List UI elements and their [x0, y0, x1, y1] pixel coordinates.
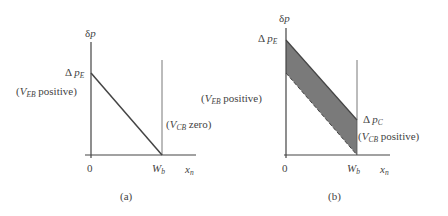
panel-a-x-tick-0: 0 [87, 163, 93, 174]
panel-b-y-axis-label: δp [279, 13, 290, 24]
panel-b-x-axis-label: xn [380, 164, 389, 175]
panel-a-dp-e-label: Δ pE [65, 67, 84, 78]
panel-b-veb-note: (VEB positive) [201, 93, 262, 104]
panel-a-x-axis-label: xn [185, 164, 194, 175]
panel-a-vcb-note: (VCB zero) [166, 119, 211, 130]
panel-b-x-tick-wb: Wb [347, 163, 360, 174]
panel-a-caption: (a) [120, 191, 132, 202]
panel-a-y-axis-label: δp [85, 28, 96, 39]
panel-b-x-tick-0: 0 [282, 163, 288, 174]
panel-a-graph [85, 42, 196, 158]
panel-a-x-tick-wb: Wb [152, 163, 165, 174]
panel-b-dp-c-label: Δ pC [363, 114, 383, 125]
panel-a-veb-note: (VEB positive) [16, 86, 77, 97]
panel-b-vcb-note: (VCB positive) [358, 131, 419, 142]
diagram-canvas [0, 0, 448, 216]
panel-a-profile-line [91, 73, 162, 155]
panel-b-shaded-band [286, 40, 357, 155]
panel-b-dp-e-label: Δ pE [258, 33, 277, 44]
panel-b-caption: (b) [328, 191, 341, 202]
